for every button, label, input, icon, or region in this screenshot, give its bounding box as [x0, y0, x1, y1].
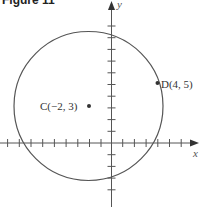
x-axis-arrow-icon — [190, 140, 199, 147]
y-axis-label: y — [116, 0, 122, 10]
coordinate-plane: C(−2, 3) D(4, 5) x y — [0, 0, 201, 210]
center-point-label: C(−2, 3) — [40, 100, 78, 113]
x-axis-label: x — [192, 147, 198, 159]
point-d-label: D(4, 5) — [161, 78, 193, 91]
center-point-c — [87, 104, 91, 108]
point-d — [156, 81, 160, 85]
x-axis — [0, 139, 199, 147]
y-axis-arrow-icon — [108, 1, 115, 10]
